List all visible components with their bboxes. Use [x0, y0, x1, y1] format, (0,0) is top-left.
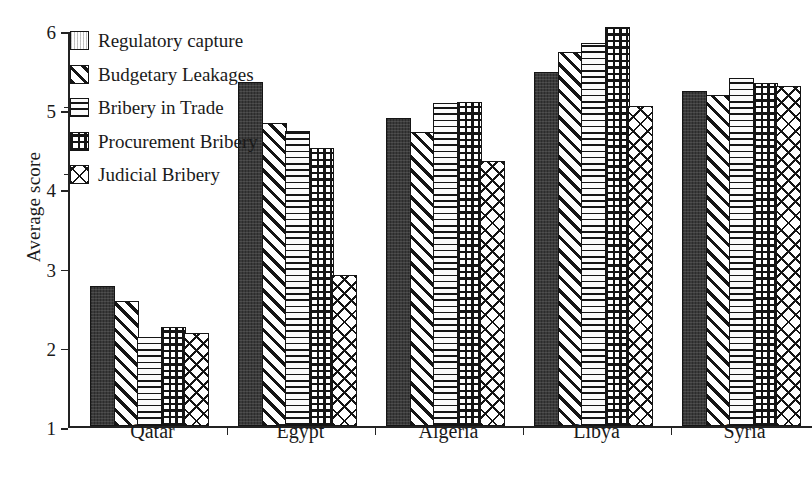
- bar-group: [386, 102, 511, 426]
- bar-qatar-budgetary-leakages: [114, 301, 139, 426]
- bar-algeria-bribery-in-trade: [433, 103, 458, 426]
- y-axis-tick-label: 3: [26, 260, 56, 279]
- bar-qatar-procurement-bribery: [161, 327, 186, 427]
- bar-algeria-judicial-bribery: [480, 161, 505, 426]
- x-axis-label-algeria: Algeria: [419, 420, 479, 443]
- bar-syria-regulatory-capture: [682, 91, 707, 426]
- legend-label: Bribery in Trade: [98, 98, 224, 117]
- legend-swatch-crosshatch: [70, 165, 89, 184]
- legend-item: Procurement Bribery: [70, 125, 258, 159]
- bar-egypt-judicial-bribery: [332, 275, 357, 426]
- x-axis-tick: [375, 427, 377, 435]
- bar-algeria-procurement-bribery: [457, 102, 482, 426]
- legend-label: Judicial Bribery: [98, 165, 220, 184]
- bar-algeria-budgetary-leakages: [410, 132, 435, 427]
- bar-libya-regulatory-capture: [534, 72, 559, 426]
- chart-legend: Regulatory captureBudgetary LeakagesBrib…: [70, 24, 258, 192]
- y-tick-label-group: 123456: [0, 0, 68, 484]
- x-axis-label-libya: Libya: [573, 420, 620, 443]
- bar-syria-judicial-bribery: [776, 86, 801, 427]
- bar-libya-procurement-bribery: [605, 27, 630, 426]
- legend-item: Regulatory capture: [70, 24, 258, 58]
- x-axis-label-syria: Syria: [723, 420, 765, 443]
- legend-item: Bribery in Trade: [70, 91, 258, 125]
- bar-libya-bribery-in-trade: [581, 43, 606, 426]
- legend-item: Judicial Bribery: [70, 158, 258, 192]
- y-axis-tick-label: 2: [26, 339, 56, 358]
- y-axis-tick: [61, 270, 68, 272]
- bar-syria-budgetary-leakages: [706, 95, 731, 427]
- bar-libya-budgetary-leakages: [558, 52, 583, 427]
- figure-caption: [0, 470, 812, 484]
- legend-swatch-square-grid: [70, 132, 89, 151]
- y-axis-tick-label: 4: [26, 181, 56, 200]
- legend-swatch-diagonal-hatch: [70, 65, 89, 84]
- bar-qatar-judicial-bribery: [184, 333, 209, 426]
- bar-qatar-bribery-in-trade: [137, 337, 162, 426]
- legend-tick-stub: [64, 174, 70, 175]
- y-axis-tick: [61, 32, 68, 34]
- y-axis-tick-label: 5: [26, 102, 56, 121]
- bar-group: [534, 27, 659, 426]
- bar-group: [90, 286, 215, 426]
- bar-algeria-regulatory-capture: [386, 118, 411, 427]
- y-axis-tick: [61, 190, 68, 192]
- legend-swatch-solid-dark: [70, 31, 89, 50]
- x-axis-tick: [523, 427, 525, 435]
- bar-libya-judicial-bribery: [628, 106, 653, 427]
- legend-label: Procurement Bribery: [98, 132, 258, 151]
- legend-tick-stub: [64, 107, 70, 108]
- y-axis-tick: [61, 111, 68, 113]
- x-axis-label-egypt: Egypt: [277, 420, 325, 443]
- legend-label: Budgetary Leakages: [98, 65, 254, 84]
- x-axis-tick: [671, 427, 673, 435]
- legend-swatch-horizontal-lines: [70, 98, 89, 117]
- bar-qatar-regulatory-capture: [90, 286, 115, 426]
- legend-item: Budgetary Leakages: [70, 58, 258, 92]
- y-axis-tick-label: 1: [26, 419, 56, 438]
- y-axis-tick: [61, 349, 68, 351]
- bar-syria-procurement-bribery: [753, 83, 778, 427]
- legend-label: Regulatory capture: [98, 31, 243, 50]
- y-axis-tick-label: 6: [26, 23, 56, 42]
- bar-egypt-bribery-in-trade: [285, 131, 310, 426]
- x-axis-label-qatar: Qatar: [130, 420, 174, 443]
- bar-chart-figure: Average score 123456 QatarEgyptAlgeriaLi…: [0, 0, 812, 484]
- bar-syria-bribery-in-trade: [729, 78, 754, 426]
- bar-egypt-procurement-bribery: [309, 148, 334, 427]
- bar-group: [682, 78, 807, 426]
- x-axis-tick: [227, 427, 229, 435]
- bar-egypt-budgetary-leakages: [262, 123, 287, 426]
- y-axis-tick: [61, 428, 68, 430]
